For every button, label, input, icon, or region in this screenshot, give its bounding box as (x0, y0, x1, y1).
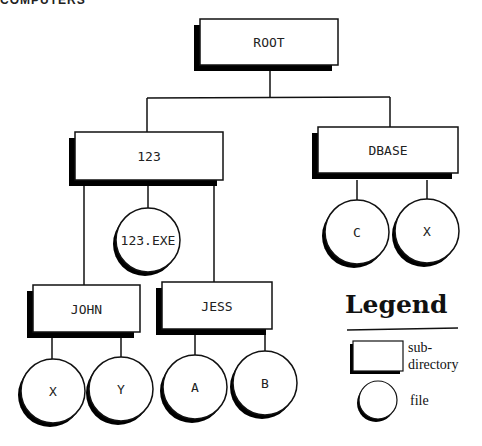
legend-label-subdirectory-1: sub- (408, 340, 432, 355)
file-node-c[interactable]: C (322, 200, 389, 268)
directory-tree-diagram: ROOT123DBASEJOHNJESS 123.EXECXXYAB Legen… (0, 0, 482, 446)
legend-box-icon (353, 341, 403, 371)
file-label: 123.EXE (121, 233, 176, 248)
legend-label-file: file (410, 393, 429, 408)
legend-label-subdirectory-2: directory (408, 357, 459, 372)
file-label: X (423, 224, 431, 239)
file-node-x2[interactable]: X (18, 359, 85, 427)
connector-line (147, 97, 390, 98)
directory-label: JOHN (71, 302, 102, 317)
file-node-exe[interactable]: 123.EXE (113, 208, 180, 276)
file-node-x1[interactable]: X (392, 199, 459, 267)
file-label: Y (117, 382, 125, 397)
directory-label: DBASE (368, 143, 407, 158)
file-node-b[interactable]: B (230, 351, 297, 419)
file-label: C (353, 225, 361, 240)
legend-divider (347, 328, 458, 330)
legend-circle-icon (359, 381, 397, 419)
file-label: X (49, 384, 57, 399)
file-node-y[interactable]: Y (86, 357, 153, 425)
directory-node-d123[interactable]: 123 (69, 132, 223, 186)
directory-node-root[interactable]: ROOT (194, 19, 338, 71)
directory-node-jess[interactable]: JESS (156, 282, 272, 335)
file-node-a[interactable]: A (160, 355, 227, 423)
legend-title: Legend (345, 290, 448, 319)
directory-node-john[interactable]: JOHN (27, 285, 140, 338)
file-label: B (261, 376, 269, 391)
file-label: A (191, 380, 199, 395)
directory-label: ROOT (253, 35, 284, 50)
directory-node-dbase[interactable]: DBASE (312, 127, 458, 179)
directory-label: JESS (201, 299, 232, 314)
legend-item-file: file (357, 381, 429, 422)
legend-item-subdirectory: sub- directory (350, 340, 459, 374)
directory-label: 123 (137, 149, 160, 164)
legend: Legend sub- directory file (345, 290, 459, 422)
